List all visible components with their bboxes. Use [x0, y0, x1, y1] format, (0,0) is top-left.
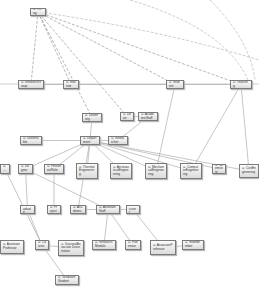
class-node-teaching[interactable]: ⊙ Teaching [230, 80, 252, 89]
class-node-graduatestudent[interactable]: ⊙ GraduateStudent [55, 275, 79, 285]
class-node-dean[interactable]: ⊙ Dean [120, 112, 134, 121]
class-node-department[interactable]: ⊙ Department [80, 136, 100, 145]
class-node-chemistry[interactable]: ⊙ Chemistry [212, 164, 226, 174]
class-node-professor[interactable]: ⊙ Professor [125, 240, 141, 250]
class-node-thermal[interactable]: ⊙ ThermalEngineering [76, 163, 98, 179]
class-node-doctoral[interactable]: ⊙ DoctoralAssociate Dissertation [58, 240, 84, 256]
curved-edge [130, 0, 250, 85]
class-node-assistantstaff[interactable]: ⊙ AssistantStaff [96, 205, 120, 214]
class-node-deliverable[interactable]: ⊙ Deliverable [20, 136, 42, 145]
class-node-student[interactable]: ⊙ Student [166, 80, 184, 89]
class-node-aeronautical[interactable]: ⊙ AeronauticalEngineering [110, 163, 132, 179]
class-node-personnel[interactable]: ⊙ PersonnelRole [44, 164, 64, 174]
class-node-researchgroup[interactable]: ⊙ ResearchGroup [18, 80, 44, 89]
edge-thing-university [38, 12, 92, 118]
class-node-lecturer[interactable]: ⊙ Lecturer [126, 205, 140, 214]
edge-teaching-computer [191, 85, 241, 172]
class-node-project[interactable]: ⊙ Project [47, 205, 61, 214]
class-node-university[interactable]: ⊙ University [82, 113, 102, 122]
class-node-civil[interactable]: ⊙ CivilEngineering [239, 164, 259, 178]
class-node-assistantprof[interactable]: ⊙ AssistantProfessor [0, 240, 24, 254]
class-node-academicstaff[interactable]: ⊙ AcademicStaff [138, 112, 158, 121]
class-node-researcher[interactable]: ⊙ Researcher [108, 136, 128, 145]
class-node-associateprof[interactable]: ⊙ AssociateProfessor [150, 240, 176, 255]
class-node-leftcut1[interactable]: ⊙ ... [0, 164, 10, 174]
class-node-mechanical[interactable]: ⊙ MechanicalEngineering [145, 163, 167, 179]
class-node-institute[interactable]: ⊙ Institute [63, 80, 79, 89]
class-node-thing[interactable]: ⊙ Thing [30, 8, 46, 16]
edge-thing-institute [38, 12, 71, 85]
edge-student-mechanical [156, 85, 175, 172]
edge-teaching-civil [241, 85, 249, 172]
curved-edge [210, 0, 255, 80]
edge-thing-researchgroup [31, 12, 38, 85]
class-node-research2[interactable]: ⊙ ResearchModule [92, 240, 116, 250]
class-node-staffmember[interactable]: ⊙ StaffMember [182, 240, 204, 250]
class-node-academic2[interactable]: ⊙ Academic [70, 205, 86, 214]
edge-thing-student [38, 12, 175, 85]
class-node-computer[interactable]: ⊙ ComputerEngineering [180, 163, 202, 179]
class-node-graduate[interactable]: ⊙ Graduate [20, 205, 35, 214]
class-node-course[interactable]: ⊙ Course [35, 240, 49, 250]
edge-degree-graduate [26, 169, 28, 210]
edge-thing-teaching [38, 12, 241, 85]
class-node-degree[interactable]: ⊙ Degree [18, 164, 33, 174]
curved-edge [40, 12, 259, 60]
